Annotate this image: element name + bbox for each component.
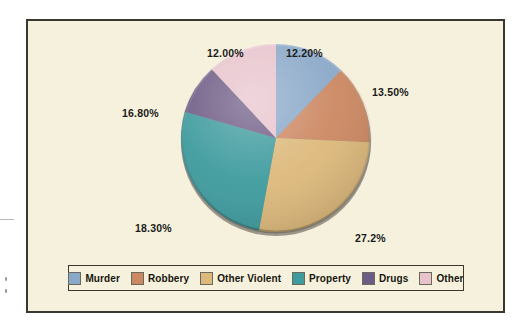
- legend-item-other-violent[interactable]: Other Violent: [200, 272, 281, 285]
- pie-label-property: 18.30%: [135, 222, 172, 234]
- pie-label-murder: 12.20%: [286, 47, 323, 59]
- pie-label-other-violent: 27.2%: [355, 232, 386, 244]
- chart-frame: 12.00% 12.20% 13.50% 27.2% 18.30% 16.80%…: [26, 19, 505, 313]
- legend-item-property[interactable]: Property: [292, 272, 351, 285]
- legend-label-other-violent: Other Violent: [217, 273, 281, 284]
- scan-artifacts: [0, 0, 26, 332]
- legend-swatch-robbery: [131, 272, 144, 285]
- legend-swatch-murder: [68, 272, 81, 285]
- pie-label-drugs: 16.80%: [122, 107, 159, 119]
- chart-legend: Murder Robbery Other Violent Property Dr…: [68, 265, 464, 291]
- legend-swatch-property: [292, 272, 305, 285]
- legend-item-drugs[interactable]: Drugs: [362, 272, 408, 285]
- legend-swatch-other-violent: [200, 272, 213, 285]
- pie-label-robbery: 13.50%: [372, 86, 409, 98]
- legend-swatch-other: [419, 272, 432, 285]
- pie-label-other: 12.00%: [207, 47, 244, 59]
- legend-swatch-drugs: [362, 272, 375, 285]
- legend-label-murder: Murder: [85, 273, 120, 284]
- legend-item-robbery[interactable]: Robbery: [131, 272, 189, 285]
- pie-chart: [176, 35, 376, 245]
- legend-label-drugs: Drugs: [379, 273, 408, 284]
- legend-label-other: Other: [436, 273, 463, 284]
- legend-item-other[interactable]: Other: [419, 272, 463, 285]
- legend-label-property: Property: [309, 273, 351, 284]
- legend-item-murder[interactable]: Murder: [68, 272, 120, 285]
- legend-label-robbery: Robbery: [148, 273, 189, 284]
